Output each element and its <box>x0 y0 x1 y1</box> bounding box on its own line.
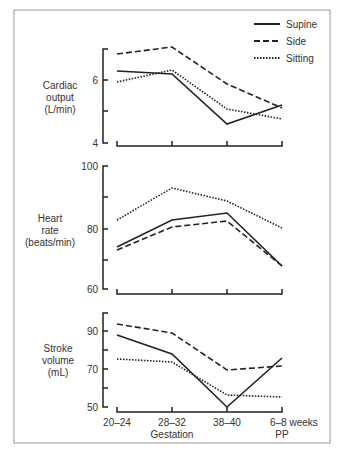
co-sitting-line <box>117 70 282 119</box>
chart-figure: Supine Side Sitting Cardiac output (L/mi… <box>0 0 342 455</box>
sv-supine-line <box>117 335 282 407</box>
x-tick-20-24: 20–24 <box>103 417 131 428</box>
sv-ylabel-3: (mL) <box>48 367 69 378</box>
sv-y-axis <box>103 313 108 407</box>
panel-cardiac-output: Cardiac output (L/min) 6 4 <box>43 47 282 149</box>
x-tick-6-8-weeks: 6–8 weeks <box>270 417 318 428</box>
x-tick-38-40: 38–40 <box>213 417 241 428</box>
legend: Supine Side Sitting <box>254 19 318 64</box>
hr-ylabel-3: (beats/min) <box>25 237 75 248</box>
sv-sitting-line <box>117 359 282 397</box>
legend-side-label: Side <box>286 36 306 47</box>
x-label-gestation: Gestation <box>151 429 194 440</box>
hr-ylabel-2: rate <box>41 225 59 236</box>
sv-side-line <box>117 324 282 370</box>
co-tick-4: 4 <box>92 138 98 149</box>
legend-sitting-label: Sitting <box>286 53 314 64</box>
co-x-axis <box>117 141 282 146</box>
sv-ylabel-1: Stroke <box>44 343 73 354</box>
panel-stroke-volume: Stroke volume (mL) 90 70 50 <box>42 313 282 413</box>
hr-supine-line <box>117 213 282 266</box>
hr-sitting-line <box>117 188 282 228</box>
x-tick-28-32: 28–32 <box>158 417 186 428</box>
x-axis-labels: 20–24 28–32 38–40 6–8 weeks Gestation PP <box>103 417 318 440</box>
hr-x-axis <box>117 289 282 294</box>
sv-tick-90: 90 <box>87 326 99 337</box>
sv-tick-70: 70 <box>87 364 99 375</box>
panel-heart-rate: Heart rate (beats/min) 100 80 60 <box>25 161 282 295</box>
hr-side-line <box>117 221 282 266</box>
sv-x-axis <box>117 407 282 412</box>
legend-supine-label: Supine <box>286 19 318 30</box>
hr-tick-100: 100 <box>81 161 98 172</box>
hr-ylabel-1: Heart <box>38 213 63 224</box>
sv-ylabel-2: volume <box>42 355 75 366</box>
sv-tick-50: 50 <box>87 402 99 413</box>
co-y-axis <box>103 49 108 143</box>
co-ylabel-3: (L/min) <box>44 104 75 115</box>
hr-tick-60: 60 <box>87 284 99 295</box>
hr-tick-80: 80 <box>87 224 99 235</box>
co-ylabel-1: Cardiac <box>43 80 77 91</box>
co-ylabel-2: output <box>46 92 74 103</box>
co-tick-6: 6 <box>92 75 98 86</box>
hr-y-axis <box>103 166 108 289</box>
x-label-pp: PP <box>275 429 289 440</box>
